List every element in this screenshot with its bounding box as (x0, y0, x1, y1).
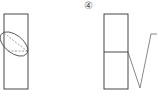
right-rectangle (104, 14, 128, 89)
dashed-diagonal (4, 33, 27, 51)
diagram-canvas (0, 0, 158, 102)
left-rectangle (4, 14, 28, 89)
figure-4 (104, 14, 157, 89)
tilted-ellipse (0, 27, 32, 61)
figure-number-label: ④ (84, 0, 93, 11)
figure-left (0, 14, 32, 89)
v-line (128, 34, 157, 88)
